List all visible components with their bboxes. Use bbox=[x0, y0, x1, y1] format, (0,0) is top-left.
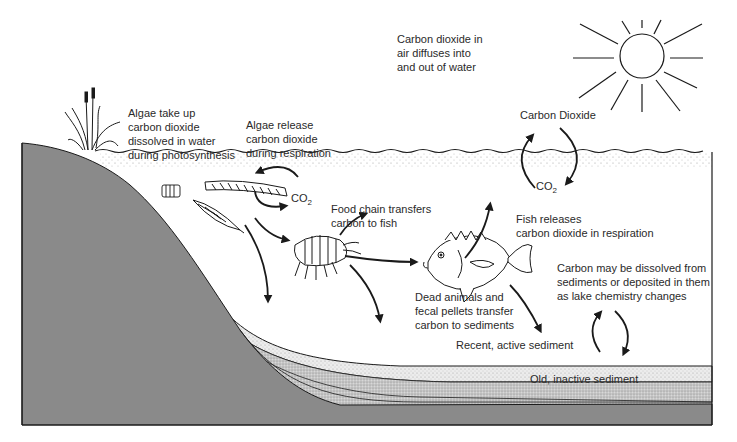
lake-carbon-cycle-diagram: Carbon dioxide in air diffuses into and … bbox=[0, 0, 737, 442]
co2-text: CO bbox=[291, 192, 308, 204]
sun-icon bbox=[573, 20, 703, 112]
label-dead-animals: Dead animals and fecal pellets transfer … bbox=[415, 290, 514, 332]
label-carbon-sediment-exchange: Carbon may be dissolved from sediments o… bbox=[557, 261, 710, 303]
label-old-sediment: Old, inactive sediment bbox=[530, 372, 638, 386]
label-co2-water: CO2 bbox=[536, 180, 557, 195]
label-food-chain: Food chain transfers carbon to fish bbox=[331, 202, 431, 230]
label-carbon-dioxide-air: Carbon Dioxide bbox=[520, 108, 596, 122]
label-recent-sediment: Recent, active sediment bbox=[456, 338, 573, 352]
label-air-diffusion: Carbon dioxide in air diffuses into and … bbox=[397, 32, 483, 74]
label-algae-uptake: Algae take up carbon dioxide dissolved i… bbox=[128, 106, 235, 162]
co2-subscript: 2 bbox=[308, 198, 312, 207]
label-co2-algae: CO2 bbox=[291, 192, 312, 207]
colonial-algae-icon bbox=[162, 185, 180, 197]
co2-text: CO bbox=[536, 180, 553, 192]
label-fish-releases: Fish releases carbon dioxide in respirat… bbox=[516, 212, 654, 240]
label-algae-release: Algae release carbon dioxide during resp… bbox=[246, 118, 331, 160]
co2-subscript: 2 bbox=[553, 186, 557, 195]
reed-plant-icon bbox=[65, 88, 120, 150]
